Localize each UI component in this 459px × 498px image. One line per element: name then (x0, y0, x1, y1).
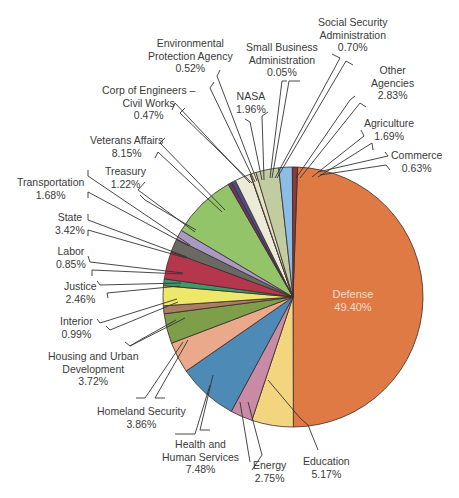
leader-line (320, 165, 390, 175)
label-labor: Labor 0.85% (56, 245, 86, 270)
label-hhs-line2: Human Services (162, 451, 239, 464)
label-justice-pct: 2.46% (64, 293, 97, 306)
label-energy: Energy 2.75% (253, 459, 286, 484)
label-interior: Interior 0.99% (60, 315, 93, 340)
label-education-name: Education (303, 455, 350, 468)
label-sba: Small Business Administration 0.05% (246, 41, 318, 79)
label-labor-name: Labor (56, 245, 86, 258)
label-commerce: Commerce 0.63% (391, 149, 442, 174)
label-ssa: Social Security Administration 0.70% (318, 16, 387, 54)
leader-line (155, 340, 188, 398)
label-education: Education 5.17% (303, 455, 350, 480)
label-commerce-pct: 0.63% (391, 162, 442, 175)
label-agriculture-pct: 1.69% (364, 130, 414, 143)
label-education-pct: 5.17% (303, 468, 350, 481)
label-sba-line2: Administration (246, 54, 318, 67)
pie-slices (163, 167, 423, 427)
label-state-pct: 3.42% (55, 224, 85, 237)
label-other-line2: Agencies (371, 77, 414, 90)
label-corps-line2: Civil Works (102, 97, 195, 110)
leader-line (88, 230, 186, 258)
label-state: State 3.42% (55, 211, 85, 236)
label-homeland-name: Homeland Security (97, 405, 186, 418)
label-transportation: Transportation 1.68% (17, 176, 84, 201)
label-ssa-line2: Administration (318, 29, 387, 42)
label-agriculture-name: Agriculture (364, 117, 414, 130)
label-veterans-name: Veterans Affairs (90, 134, 163, 147)
label-ssa-pct: 0.70% (318, 41, 387, 54)
label-transportation-pct: 1.68% (17, 189, 84, 202)
label-transportation-name: Transportation (17, 176, 84, 189)
leader-line (155, 152, 222, 212)
label-interior-name: Interior (60, 315, 93, 328)
label-state-name: State (55, 211, 85, 224)
label-other: Other Agencies 2.83% (371, 64, 414, 102)
label-sba-pct: 0.05% (246, 66, 318, 79)
label-corps-line1: Corp of Engineers – (102, 84, 195, 97)
label-hhs: Health and Human Services 7.48% (162, 438, 239, 476)
label-hud-pct: 3.72% (48, 375, 138, 388)
label-treasury-name: Treasury (105, 165, 146, 178)
label-hud-line2: Development (48, 363, 138, 376)
leader-line (318, 143, 373, 177)
leader-line (277, 61, 353, 178)
label-energy-pct: 2.75% (253, 472, 286, 485)
label-interior-pct: 0.99% (60, 328, 93, 341)
label-epa-pct: 0.52% (148, 62, 233, 75)
label-epa-line2: Protection Agency (148, 50, 233, 63)
label-homeland: Homeland Security 3.86% (97, 405, 186, 430)
label-veterans: Veterans Affairs 8.15% (90, 134, 163, 159)
label-epa-line1: Environmental (148, 37, 233, 50)
label-agriculture: Agriculture 1.69% (364, 117, 414, 142)
label-veterans-pct: 8.15% (90, 147, 163, 160)
label-treasury: Treasury 1.22% (105, 165, 146, 190)
slice-label-defense-pct: 49.40% (334, 301, 372, 313)
label-other-pct: 2.83% (371, 89, 414, 102)
leader-line (270, 81, 287, 178)
label-nasa-name: NASA (236, 90, 266, 103)
label-justice: Justice 2.46% (64, 280, 97, 305)
label-nasa: NASA 1.96% (236, 90, 266, 115)
slice-label-defense-name: Defense (333, 288, 374, 300)
label-sba-line1: Small Business (246, 41, 318, 54)
label-treasury-pct: 1.22% (105, 178, 146, 191)
label-hhs-line1: Health and (162, 438, 239, 451)
label-homeland-pct: 3.86% (97, 418, 186, 431)
label-justice-name: Justice (64, 280, 97, 293)
label-hud-line1: Housing and Urban (48, 350, 138, 363)
label-commerce-name: Commerce (391, 149, 442, 162)
label-epa: Environmental Protection Agency 0.52% (148, 37, 233, 75)
label-hud: Housing and Urban Development 3.72% (48, 350, 138, 388)
label-other-line1: Other (371, 64, 414, 77)
label-nasa-pct: 1.96% (236, 103, 266, 116)
leader-line (88, 192, 189, 246)
label-ssa-line1: Social Security (318, 16, 387, 29)
label-energy-name: Energy (253, 459, 286, 472)
label-corps-pct: 0.47% (102, 109, 195, 122)
label-corps: Corp of Engineers – Civil Works 0.47% (102, 84, 195, 122)
label-labor-pct: 0.85% (56, 258, 86, 271)
label-hhs-pct: 7.48% (162, 463, 239, 476)
